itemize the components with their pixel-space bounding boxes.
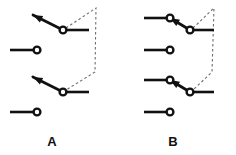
figure-root: A	[0, 0, 236, 155]
switch-diagram-canvas: A	[0, 0, 236, 155]
contact-terminal-b-1	[167, 15, 174, 22]
contact-lead-b-row-2	[144, 47, 173, 54]
linkage-dashed-path-a	[66, 8, 96, 90]
contact-lead-b-row-4	[144, 109, 173, 116]
lever-arrow-icon-a-1	[33, 15, 43, 22]
contact-lead-a-row-4	[10, 109, 40, 116]
switch-a-row-1[interactable]	[33, 15, 89, 33]
switch-a-row-3[interactable]	[33, 77, 89, 95]
panel-label-b: B	[168, 134, 177, 149]
pivot-terminal-b-1	[187, 27, 194, 34]
panel-a: A	[10, 8, 96, 149]
contact-terminal-a-4	[34, 109, 41, 116]
pivot-terminal-a-1	[60, 27, 67, 34]
contact-terminal-b-3	[167, 77, 174, 84]
switch-b-row-3[interactable]	[144, 77, 214, 96]
pivot-terminal-b-3	[187, 89, 194, 96]
contact-lead-a-row-2	[10, 47, 40, 54]
pivot-terminal-a-3	[60, 89, 67, 96]
contact-terminal-a-2	[34, 47, 41, 54]
linkage-dashed-path-b	[193, 8, 214, 90]
lever-arrow-icon-a-3	[33, 77, 43, 84]
contact-terminal-b-2	[167, 47, 174, 54]
panel-b: B	[144, 8, 214, 149]
contact-terminal-b-4	[167, 109, 174, 116]
panel-label-a: A	[47, 134, 57, 149]
switch-b-row-1[interactable]	[144, 15, 214, 34]
